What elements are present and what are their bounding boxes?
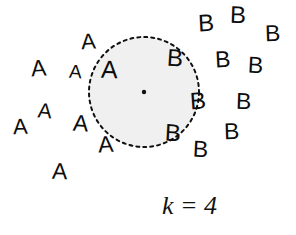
data-point-a: A bbox=[13, 116, 28, 138]
k-value-caption: k = 4 bbox=[162, 193, 217, 219]
data-point-b: B bbox=[247, 54, 264, 78]
data-point-b: B bbox=[214, 48, 231, 72]
data-point-a: A bbox=[97, 133, 114, 157]
data-point-a: A bbox=[30, 56, 47, 80]
query-point-dot bbox=[142, 90, 146, 94]
data-point-b: B bbox=[197, 11, 214, 36]
data-point-b: B bbox=[265, 22, 281, 46]
knn-diagram: AAAAAAAAABBBBBBBBBBB k = 4 bbox=[0, 0, 296, 235]
data-point-b: B bbox=[192, 138, 209, 162]
data-point-a: A bbox=[80, 31, 96, 54]
data-point-b: B bbox=[189, 88, 207, 113]
data-point-a: A bbox=[72, 111, 89, 135]
data-point-b: B bbox=[230, 3, 247, 28]
data-point-a: A bbox=[37, 99, 53, 121]
data-point-b: B bbox=[224, 120, 240, 144]
data-point-b: B bbox=[236, 90, 252, 114]
data-point-a: A bbox=[101, 57, 119, 83]
data-point-b: B bbox=[164, 121, 181, 146]
scatter-plot-area: AAAAAAAAABBBBBBBBBBB bbox=[0, 0, 296, 235]
data-point-b: B bbox=[166, 45, 184, 70]
data-point-a: A bbox=[52, 160, 68, 184]
data-point-a: A bbox=[69, 62, 83, 82]
